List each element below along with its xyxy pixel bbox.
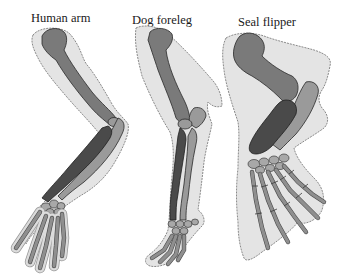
human-fingers — [16, 212, 64, 268]
dog-elbow — [178, 119, 192, 129]
dog-foreleg — [135, 26, 222, 267]
seal-flipper — [223, 33, 331, 260]
human-arm — [16, 28, 128, 268]
limbs-illustration: .tissue { fill: #e4e4e4; stroke: #8a8a8a… — [0, 0, 346, 280]
figure-canvas: Human arm Dog foreleg Seal flipper .tiss… — [0, 0, 346, 280]
